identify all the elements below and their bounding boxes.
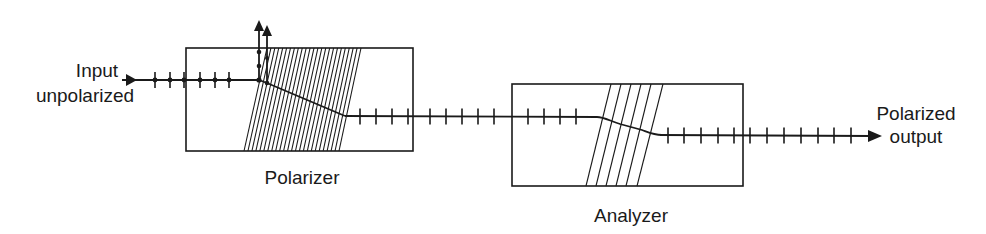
input-beam (122, 72, 259, 88)
hatch-line (586, 84, 611, 186)
polarization-dot (153, 78, 158, 83)
hatch-line (626, 84, 651, 186)
analyzer-label: Analyzer (594, 205, 669, 226)
polarizer-label: Polarizer (265, 167, 341, 188)
output-label-line2: output (890, 126, 944, 147)
polarization-dot (168, 78, 173, 83)
polarization-dot (198, 78, 203, 83)
rejected-arrow-icon-1 (254, 20, 264, 31)
analyzer-hatching (586, 84, 663, 186)
polarizer-hatching (244, 48, 361, 151)
polarizer-box (186, 48, 413, 151)
output-label-line1: Polarized (876, 103, 955, 124)
output-arrow-icon (868, 130, 882, 142)
polarization-dot (182, 78, 187, 83)
hatch-line (596, 84, 621, 186)
hatch-line (616, 84, 641, 186)
input-label-line2: unpolarized (36, 85, 134, 106)
rejected-beams (254, 20, 272, 85)
polarization-dot (213, 78, 218, 83)
input-label-line1: Input (76, 60, 119, 81)
polarization-dot (227, 78, 232, 83)
middle-beam (345, 109, 597, 125)
polarizer (186, 48, 413, 151)
hatch-line (606, 84, 631, 186)
polarizer-analyzer-diagram: Input unpolarized Polarizer Analyzer Pol… (0, 0, 986, 234)
output-beam (660, 128, 882, 144)
